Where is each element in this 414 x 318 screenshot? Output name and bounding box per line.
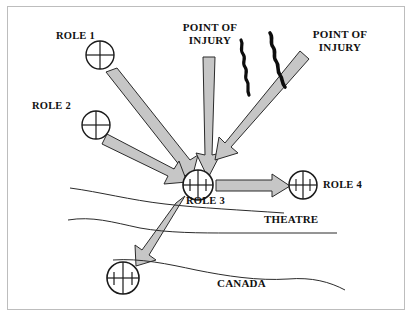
label-point-of-injury-right-line2: INJURY: [300, 41, 380, 53]
node-symbol-role4: [289, 171, 317, 199]
label-role1: ROLE 1: [56, 30, 95, 42]
arrow-poi-center-to-role3: [196, 57, 221, 178]
arrow-role3-to-role4: [216, 174, 290, 197]
theatre-boundary-lower-line: [68, 219, 284, 233]
label-point-of-injury-right-line1: POINT OF: [300, 28, 380, 40]
node-symbol-role1: [86, 41, 114, 69]
label-point-of-injury-center-line1: POINT OF: [171, 21, 249, 33]
node-symbol-canada-facility: [107, 262, 139, 294]
arrow-poi-right-to-role3: [215, 51, 309, 160]
label-canada: CANADA: [217, 277, 266, 289]
arrow-group: [102, 51, 309, 266]
label-point-of-injury-center-line2: INJURY: [171, 34, 249, 46]
label-role3: ROLE 3: [186, 195, 225, 207]
label-theatre: THEATRE: [264, 213, 318, 225]
diagram-canvas: ROLE 1 ROLE 2 ROLE 3 ROLE 4 POINT OF INJ…: [0, 0, 414, 318]
node-symbol-role2: [82, 111, 110, 139]
label-role2: ROLE 2: [32, 100, 71, 112]
injury-squiggle-left-icon: [241, 40, 249, 95]
label-role4: ROLE 4: [323, 179, 362, 191]
